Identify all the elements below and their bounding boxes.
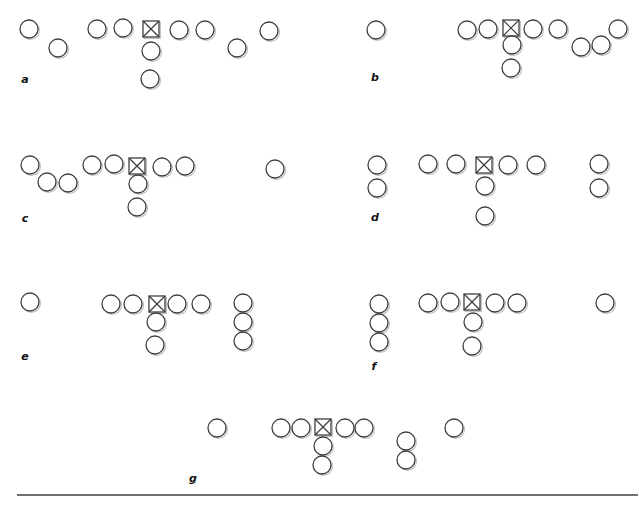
circle-marker	[49, 39, 68, 58]
panel-g: g	[189, 419, 464, 485]
circle-marker	[370, 333, 389, 352]
panel-a: a	[20, 19, 279, 89]
circle-marker	[192, 295, 211, 314]
panel-label-f: f	[372, 360, 378, 373]
crossed-square-marker	[503, 20, 520, 37]
circle-marker	[463, 337, 482, 356]
circle-marker	[370, 295, 389, 314]
crossed-square-marker	[149, 296, 166, 313]
panel-b: b	[367, 20, 628, 84]
circle-marker	[397, 451, 416, 470]
circle-marker	[590, 155, 609, 174]
circle-marker	[458, 21, 477, 40]
circle-marker	[196, 21, 215, 40]
circle-marker	[502, 59, 521, 78]
circle-marker	[234, 313, 253, 332]
circle-marker	[146, 336, 165, 355]
panel-label-b: b	[371, 71, 379, 84]
circle-marker	[105, 155, 124, 174]
figure-page: abcdefg	[0, 0, 639, 506]
circle-marker	[266, 160, 285, 179]
circle-marker	[272, 419, 291, 438]
circle-marker	[142, 42, 161, 61]
circle-marker	[549, 20, 568, 39]
circle-marker	[596, 294, 615, 313]
panel-c: c	[21, 155, 285, 225]
circle-marker	[503, 36, 522, 55]
circle-marker	[21, 156, 40, 175]
crossed-square-marker	[143, 21, 160, 38]
panel-e: e	[21, 293, 253, 363]
circle-marker	[234, 294, 253, 313]
panel-label-d: d	[371, 211, 379, 224]
circle-marker	[370, 314, 389, 333]
circle-marker	[141, 70, 160, 89]
circle-marker	[508, 294, 527, 313]
circle-marker	[176, 157, 195, 176]
circle-marker	[292, 419, 311, 438]
circle-marker	[527, 156, 546, 175]
circle-marker	[336, 419, 355, 438]
circle-marker	[260, 22, 279, 41]
circle-marker	[447, 155, 466, 174]
circle-marker	[313, 456, 332, 475]
circle-marker	[168, 295, 187, 314]
circle-marker	[38, 173, 57, 192]
circle-marker	[88, 20, 107, 39]
circle-marker	[21, 293, 40, 312]
panel-label-g: g	[189, 472, 197, 485]
circle-marker	[476, 207, 495, 226]
circle-marker	[397, 432, 416, 451]
circle-marker	[590, 179, 609, 198]
circle-marker	[234, 332, 253, 351]
crossed-square-marker	[464, 294, 481, 311]
circle-marker	[124, 295, 143, 314]
circle-marker	[464, 313, 483, 332]
circle-marker	[445, 419, 464, 438]
circle-marker	[59, 174, 78, 193]
circle-marker	[479, 20, 498, 39]
spatial-arrangement-diagram: abcdefg	[0, 0, 639, 506]
circle-marker	[102, 295, 121, 314]
circle-marker	[128, 198, 147, 217]
circle-marker	[208, 419, 227, 438]
circle-marker	[153, 158, 172, 177]
circle-marker	[572, 38, 591, 57]
circle-marker	[83, 156, 102, 175]
panel-f: f	[370, 293, 615, 373]
circle-marker	[419, 155, 438, 174]
circle-marker	[368, 179, 387, 198]
circle-marker	[609, 20, 628, 39]
circle-marker	[524, 20, 543, 39]
circle-marker	[367, 21, 386, 40]
panel-label-e: e	[21, 350, 29, 363]
circle-marker	[368, 156, 387, 175]
crossed-square-marker	[476, 157, 493, 174]
panel-label-c: c	[22, 212, 29, 225]
circle-marker	[355, 419, 374, 438]
circle-marker	[228, 39, 247, 58]
circle-marker	[476, 177, 495, 196]
circle-marker	[486, 294, 505, 313]
circle-marker	[129, 175, 148, 194]
circle-marker	[314, 437, 333, 456]
panel-d: d	[368, 155, 609, 226]
panel-label-a: a	[21, 73, 28, 86]
circle-marker	[441, 293, 460, 312]
crossed-square-marker	[315, 419, 332, 436]
circle-marker	[592, 36, 611, 55]
circle-marker	[499, 156, 518, 175]
circle-marker	[114, 19, 133, 38]
circle-marker	[147, 313, 166, 332]
circle-marker	[170, 21, 189, 40]
circle-marker	[419, 294, 438, 313]
circle-marker	[20, 20, 39, 39]
crossed-square-marker	[129, 158, 146, 175]
